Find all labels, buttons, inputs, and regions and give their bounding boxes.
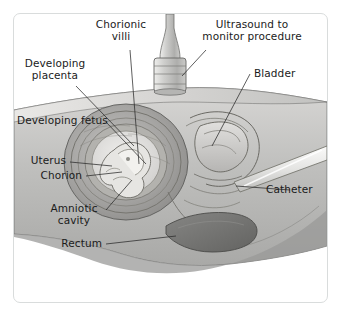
figure-frame: Chorionic villi Ultrasound to monitor pr… [13, 13, 328, 303]
label-amniotic-cavity: Amniotic cavity [44, 203, 104, 226]
label-ultrasound: Ultrasound to monitor procedure [188, 19, 316, 42]
label-chorionic-villi: Chorionic villi [86, 19, 156, 42]
label-catheter: Catheter [266, 184, 313, 196]
label-developing-fetus: Developing fetus [17, 115, 108, 127]
label-chorion: Chorion [14, 170, 82, 182]
ultrasound-transducer[interactable] [154, 14, 186, 95]
figure-root: Chorionic villi Ultrasound to monitor pr… [0, 0, 341, 316]
label-bladder: Bladder [254, 68, 295, 80]
label-rectum: Rectum [38, 238, 102, 250]
label-developing-placenta: Developing placenta [16, 58, 94, 81]
label-uterus: Uterus [14, 155, 66, 167]
